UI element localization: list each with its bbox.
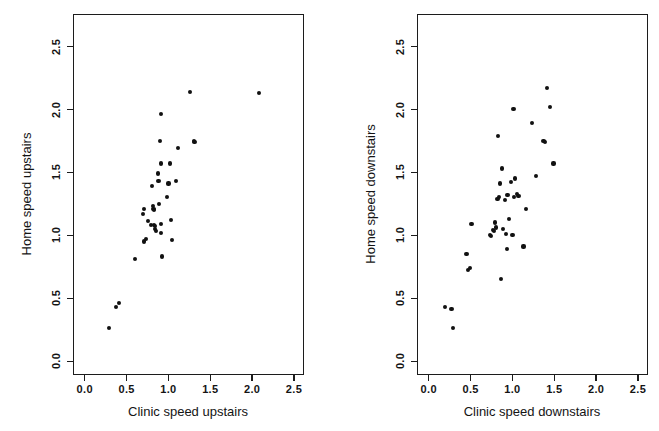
scatter-point	[117, 301, 121, 305]
scatter-point	[507, 217, 511, 221]
scatter-point	[492, 229, 496, 233]
scatter-point	[157, 202, 161, 206]
scatter-point	[468, 266, 472, 270]
y-axis-title-downstairs: Home speed downstairs	[363, 124, 378, 263]
y-tick-label: 0.0	[394, 353, 406, 369]
y-tick-label: 0.5	[394, 290, 406, 306]
x-tick-mark	[470, 375, 471, 381]
x-tick-mark	[554, 375, 555, 381]
scatter-point	[160, 254, 164, 258]
scatter-point	[510, 233, 514, 237]
scatter-point	[524, 207, 528, 211]
y-tick-label: 1.0	[394, 227, 406, 243]
y-tick-label: 2.0	[50, 101, 62, 117]
x-tick-label: 2.0	[244, 383, 260, 395]
plot-frame-downstairs	[417, 14, 648, 375]
y-tick-mark	[411, 172, 417, 173]
x-axis-title-downstairs: Clinic speed downstairs	[464, 404, 601, 419]
panel-downstairs: 0.00.51.01.52.02.50.00.51.01.52.02.5 Cli…	[330, 0, 659, 431]
scatter-point	[498, 181, 502, 185]
x-tick-mark	[84, 375, 85, 381]
scatter-point	[154, 229, 158, 233]
scatter-point	[505, 247, 509, 251]
scatter-point	[500, 166, 504, 170]
x-tick-mark	[512, 375, 513, 381]
scatter-point	[159, 222, 163, 226]
scatter-point	[170, 238, 174, 242]
scatter-point	[530, 121, 534, 125]
scatter-plot-figure: 0.00.51.01.52.02.50.00.51.01.52.02.5 Cli…	[0, 0, 659, 431]
data-points-downstairs	[418, 15, 647, 374]
x-tick-mark	[210, 375, 211, 381]
x-tick-mark	[428, 375, 429, 381]
scatter-point	[188, 90, 192, 94]
scatter-point	[156, 171, 160, 175]
x-tick-label: 2.0	[588, 383, 604, 395]
y-tick-label: 1.0	[50, 227, 62, 243]
x-tick-mark	[251, 375, 252, 381]
scatter-point	[516, 194, 520, 198]
x-tick-label: 0.0	[77, 383, 93, 395]
scatter-point	[548, 105, 552, 109]
scatter-point	[497, 195, 501, 199]
x-tick-label: 1.0	[160, 383, 176, 395]
scatter-point	[511, 107, 515, 111]
data-points-upstairs	[74, 15, 303, 374]
y-tick-label: 2.5	[394, 39, 406, 55]
y-tick-mark	[411, 298, 417, 299]
y-tick-mark	[411, 109, 417, 110]
scatter-point	[159, 161, 163, 165]
y-tick-label: 1.5	[394, 164, 406, 180]
scatter-point	[496, 134, 500, 138]
scatter-point	[152, 208, 156, 212]
scatter-point	[133, 257, 137, 261]
x-tick-mark	[126, 375, 127, 381]
scatter-point	[469, 222, 473, 226]
y-tick-label: 2.0	[394, 101, 406, 117]
scatter-point	[551, 161, 555, 165]
scatter-point	[114, 305, 118, 309]
panel-upstairs: 0.00.51.01.52.02.50.00.51.01.52.02.5 Cli…	[0, 0, 329, 431]
scatter-point	[141, 212, 145, 216]
scatter-point	[503, 198, 507, 202]
scatter-point	[534, 174, 538, 178]
scatter-point	[150, 184, 154, 188]
scatter-point	[107, 326, 111, 330]
y-tick-mark	[67, 298, 73, 299]
scatter-point	[451, 326, 455, 330]
y-tick-mark	[67, 172, 73, 173]
x-tick-label: 0.5	[462, 383, 478, 395]
scatter-point	[169, 218, 173, 222]
plot-frame-upstairs	[73, 14, 304, 375]
y-tick-mark	[67, 361, 73, 362]
scatter-point	[165, 195, 169, 199]
scatter-point	[521, 244, 525, 248]
scatter-point	[174, 179, 178, 183]
x-tick-label: 2.5	[630, 383, 646, 395]
x-tick-mark	[637, 375, 638, 381]
scatter-point	[449, 307, 453, 311]
scatter-point	[142, 207, 146, 211]
x-tick-label: 1.5	[546, 383, 562, 395]
scatter-point	[513, 176, 517, 180]
scatter-point	[257, 91, 261, 95]
y-tick-mark	[411, 235, 417, 236]
scatter-point	[543, 140, 547, 144]
x-tick-mark	[595, 375, 596, 381]
scatter-point	[159, 231, 163, 235]
y-tick-mark	[67, 235, 73, 236]
y-tick-label: 0.0	[50, 353, 62, 369]
x-tick-label: 1.5	[202, 383, 218, 395]
scatter-point	[494, 225, 498, 229]
scatter-point	[501, 227, 505, 231]
y-tick-label: 0.5	[50, 290, 62, 306]
x-tick-label: 2.5	[286, 383, 302, 395]
x-tick-mark	[293, 375, 294, 381]
scatter-point	[464, 252, 468, 256]
scatter-point	[156, 179, 160, 183]
scatter-point	[509, 180, 513, 184]
x-tick-label: 0.0	[421, 383, 437, 395]
scatter-point	[166, 181, 170, 185]
scatter-point	[443, 305, 447, 309]
y-axis-title-upstairs: Home speed upstairs	[19, 133, 34, 256]
